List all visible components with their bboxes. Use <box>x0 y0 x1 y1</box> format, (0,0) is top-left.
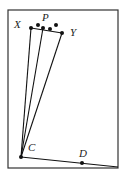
segment-c-p <box>21 28 43 157</box>
segment-x-y <box>31 28 62 33</box>
label-p: P <box>41 11 49 23</box>
point-p3 <box>48 27 52 31</box>
segment-c-y <box>21 33 62 157</box>
segment-c-corner <box>21 157 118 167</box>
point-x <box>29 26 33 30</box>
label-d: D <box>78 147 87 159</box>
label-y: Y <box>70 26 78 38</box>
point-p4 <box>54 23 58 27</box>
segments <box>21 28 118 167</box>
label-c: C <box>28 141 36 153</box>
segment-c-x <box>21 28 31 157</box>
point-p1 <box>36 23 40 27</box>
geometry-diagram: X P Y C D <box>0 0 126 177</box>
label-x: X <box>13 18 22 30</box>
point-d <box>80 161 84 165</box>
point-c <box>19 155 23 159</box>
point-y <box>60 31 64 35</box>
point-p2 <box>41 26 45 30</box>
